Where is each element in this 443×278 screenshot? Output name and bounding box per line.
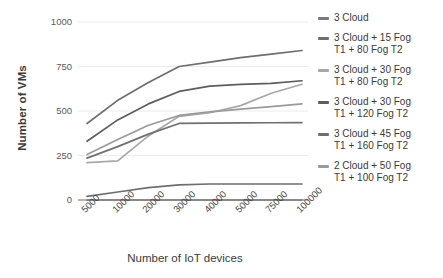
legend-item[interactable]: 3 Cloud + 30 Fog T1 + 120 Fog T2 bbox=[318, 96, 443, 121]
legend-item[interactable]: 3 Cloud + 15 Fog T1 + 80 Fog T2 bbox=[318, 32, 443, 57]
x-tick-label: 50000 bbox=[233, 188, 259, 214]
legend-item[interactable]: 3 Cloud bbox=[318, 12, 443, 25]
x-tick-label: 10000 bbox=[110, 188, 136, 214]
legend-swatch-icon bbox=[318, 17, 329, 20]
legend-label: 3 Cloud + 30 Fog T1 + 80 Fog T2 bbox=[334, 64, 411, 89]
legend-swatch-icon bbox=[318, 69, 329, 72]
chart-legend: 3 Cloud3 Cloud + 15 Fog T1 + 80 Fog T23 … bbox=[318, 12, 443, 192]
legend-swatch-icon bbox=[318, 101, 329, 104]
x-axis-title: Number of IoT devices bbox=[60, 252, 310, 264]
x-tick-label: 40000 bbox=[202, 188, 228, 214]
legend-item[interactable]: 3 Cloud + 30 Fog T1 + 80 Fog T2 bbox=[318, 64, 443, 89]
line-chart-figure: Number of VMs 02505007501000 50001000020… bbox=[0, 0, 443, 278]
legend-item[interactable]: 2 Cloud + 50 Fog T1 + 100 Fog T2 bbox=[318, 160, 443, 185]
legend-swatch-icon bbox=[318, 165, 329, 168]
legend-label: 3 Cloud + 15 Fog T1 + 80 Fog T2 bbox=[334, 32, 411, 57]
legend-label: 2 Cloud + 50 Fog T1 + 100 Fog T2 bbox=[334, 160, 411, 185]
x-tick-label: 5000 bbox=[79, 192, 102, 215]
x-tick-label: 20000 bbox=[140, 188, 166, 214]
legend-swatch-icon bbox=[318, 133, 329, 136]
x-tick-label: 30000 bbox=[171, 188, 197, 214]
x-tick-label: 75000 bbox=[263, 188, 289, 214]
legend-swatch-icon bbox=[318, 37, 329, 40]
legend-label: 3 Cloud bbox=[334, 12, 368, 25]
legend-label: 3 Cloud + 45 Fog T1 + 160 Fog T2 bbox=[334, 128, 411, 153]
legend-label: 3 Cloud + 30 Fog T1 + 120 Fog T2 bbox=[334, 96, 411, 121]
legend-item[interactable]: 3 Cloud + 45 Fog T1 + 160 Fog T2 bbox=[318, 128, 443, 153]
